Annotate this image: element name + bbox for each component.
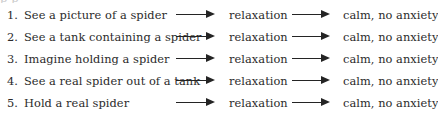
right-arrow-icon (292, 26, 330, 48)
row-outcome: calm, no anxiety (343, 26, 438, 48)
row-middle-stage: relaxation (229, 70, 288, 92)
row-outcome: calm, no anxiety (343, 4, 438, 26)
right-arrow-icon (292, 4, 330, 26)
row-middle-stage: relaxation (229, 26, 288, 48)
row-middle-stage: relaxation (229, 92, 288, 114)
row-index: 2. (7, 26, 25, 48)
row-situation: Hold a real spider (24, 92, 129, 114)
row-outcome: calm, no anxiety (343, 70, 438, 92)
right-arrow-icon (176, 92, 215, 114)
right-arrow-icon (176, 26, 215, 48)
right-arrow-icon (292, 92, 330, 114)
hierarchy-row-list: 1. See a picture of a spider relaxation … (0, 4, 437, 114)
row-middle-stage: relaxation (229, 48, 288, 70)
right-arrow-icon (292, 48, 330, 70)
table-row: 2. See a tank containing a spider relaxa… (0, 26, 437, 48)
row-outcome: calm, no anxiety (343, 92, 438, 114)
row-situation: Imagine holding a spider (24, 48, 170, 70)
clipped-text-above: p p (0, 0, 437, 3)
table-row: 1. See a picture of a spider relaxation … (0, 4, 437, 26)
row-middle-stage: relaxation (229, 4, 288, 26)
row-situation: See a tank containing a spider (24, 26, 202, 48)
row-situation: See a picture of a spider (24, 4, 167, 26)
table-row: 3. Imagine holding a spider relaxation c… (0, 48, 437, 70)
row-index: 5. (7, 92, 25, 114)
row-situation: See a real spider out of a tank (24, 70, 200, 92)
row-index: 1. (7, 4, 25, 26)
right-arrow-icon (176, 4, 215, 26)
row-index: 3. (7, 48, 25, 70)
right-arrow-icon (292, 70, 330, 92)
row-outcome: calm, no anxiety (343, 48, 438, 70)
row-index: 4. (7, 70, 25, 92)
right-arrow-icon (176, 70, 215, 92)
table-row: 4. See a real spider out of a tank relax… (0, 70, 437, 92)
table-row: 5. Hold a real spider relaxation calm, n… (0, 92, 437, 114)
right-arrow-icon (176, 48, 215, 70)
